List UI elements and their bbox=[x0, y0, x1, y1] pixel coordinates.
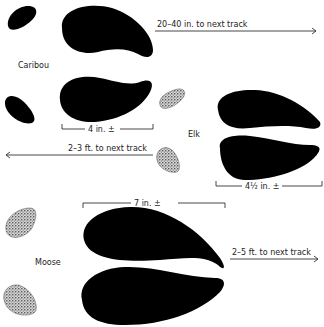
moose-dewclaw-lower bbox=[4, 285, 37, 315]
elk-label: Elk bbox=[188, 130, 200, 139]
elk-width-label: 4½ in. ± bbox=[245, 182, 279, 191]
moose-stride-label: 2–5 ft. to next track bbox=[232, 248, 311, 257]
caribou-dewclaw-upper bbox=[8, 6, 36, 30]
track-diagram: Caribou 4 in. ± 20–40 in. to next track … bbox=[0, 0, 324, 327]
moose-hoof-upper bbox=[83, 207, 223, 268]
moose-label: Moose bbox=[35, 258, 61, 267]
moose-hoof-lower bbox=[81, 267, 224, 325]
elk-hoof-upper bbox=[218, 90, 321, 129]
elk-dewclaw-lower bbox=[157, 148, 180, 173]
caribou-dewclaw-lower bbox=[5, 96, 34, 123]
elk-dewclaw-upper bbox=[160, 89, 185, 109]
elk-hoof-lower bbox=[220, 136, 320, 181]
moose-width-label: 7 in. ± bbox=[134, 199, 161, 208]
caribou-hoof-lower bbox=[60, 77, 152, 122]
moose-dewclaw-upper bbox=[6, 208, 36, 237]
caribou-hoof-upper bbox=[62, 6, 153, 57]
elk-track: Elk 4½ in. ± 2–3 ft. to next track bbox=[6, 89, 322, 191]
caribou-stride-label: 20–40 in. to next track bbox=[157, 20, 248, 29]
elk-stride-label: 2–3 ft. to next track bbox=[68, 144, 147, 153]
caribou-label: Caribou bbox=[18, 61, 49, 70]
caribou-width-label: 4 in. ± bbox=[88, 125, 115, 134]
moose-track: Moose 7 in. ± 2–5 ft. to next track bbox=[4, 199, 318, 325]
